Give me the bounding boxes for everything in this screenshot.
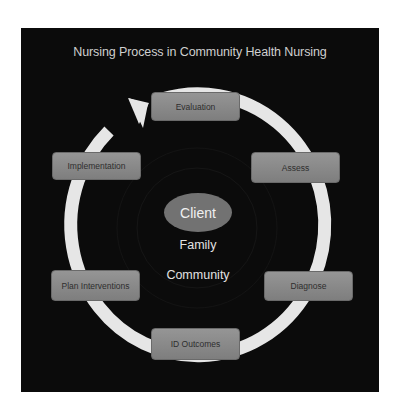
community-label: Community (138, 268, 258, 282)
step-label: Evaluation (176, 102, 216, 112)
step-label: Assess (282, 163, 309, 173)
client-label: Client (180, 205, 216, 221)
step-label: Diagnose (291, 281, 327, 291)
step-label: Plan Interventions (61, 281, 129, 291)
step-plan-interventions: Plan Interventions (51, 270, 140, 301)
step-label: Implementation (67, 161, 125, 171)
client-ellipse: Client (164, 193, 232, 232)
step-assess: Assess (251, 152, 340, 183)
step-id-outcomes: ID Outcomes (151, 328, 240, 360)
step-diagnose: Diagnose (264, 271, 353, 301)
step-evaluation: Evaluation (151, 92, 240, 121)
step-label: ID Outcomes (171, 339, 221, 349)
step-implementation: Implementation (52, 152, 141, 180)
diagram-panel: Nursing Process in Community Health Nurs… (21, 28, 379, 392)
family-label: Family (138, 238, 258, 252)
